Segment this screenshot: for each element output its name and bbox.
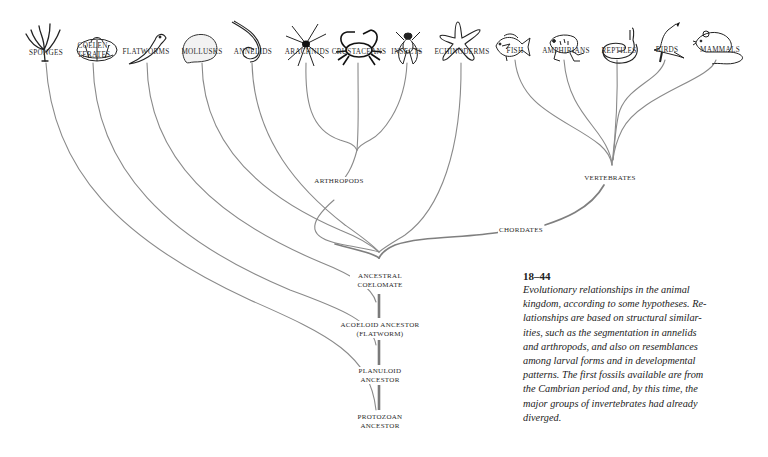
annelid-icon [228, 18, 264, 66]
branch-coelenterates [93, 63, 376, 345]
fly-icon [393, 26, 423, 68]
taxon-label-flatworms: FLATWORMS [115, 48, 177, 57]
node-label-line: ANCESTOR [351, 422, 409, 431]
taxon-label-fish: FISH [500, 47, 530, 56]
taxon-label-annelids: ANNELIDS [225, 48, 281, 57]
caption-line: patterns. The first fossils available ar… [523, 368, 753, 382]
node-label-arthropods: ARTHROPODS [312, 177, 366, 186]
node-label-protozoan-ancestor: PROTOZOAN ANCESTOR [350, 413, 410, 430]
figure-number: 18–44 [523, 270, 753, 282]
snake-icon [600, 26, 642, 66]
bird-icon [650, 22, 686, 64]
node-label-line: ANCESTRAL [351, 272, 409, 281]
taxon-label-amphibians: AMPHIBIANS [536, 47, 596, 56]
taxon-label-line: TERATES [70, 51, 118, 60]
node-label-line: ACOELOID ANCESTOR [340, 321, 420, 330]
caption-line: major groups of invertebrates had alread… [523, 397, 753, 411]
taxon-label-crustaceans: CRUSTACEANS [328, 48, 390, 57]
caption-line: diverged. [523, 411, 753, 425]
node-label-line: COELOMATE [351, 281, 409, 290]
caption-line: among larval forms and in developmental [523, 354, 753, 368]
figure-caption: 18–44 Evolutionary relationships in the … [523, 270, 753, 425]
caption-text: Evolutionary relationships in the animal… [523, 283, 753, 425]
node-label-planuloid-ancestor: PLANULOID ANCESTOR [352, 367, 408, 384]
caption-line: ities, such as the segmentation in annel… [523, 326, 753, 340]
branch-echinoderms [379, 63, 461, 252]
spider-icon [282, 20, 330, 68]
caption-line: and arthropods, and also on resemblances [523, 340, 753, 354]
node-label-line: ANCESTOR [353, 376, 407, 385]
taxon-label-sponges: SPONGES [16, 49, 76, 58]
branch-insects [357, 63, 407, 150]
node-label-line: PLANULOID [353, 367, 407, 376]
taxon-label-mollusks: MOLLUSKS [172, 48, 232, 57]
branch-vertebrates [545, 185, 604, 225]
branch-crustaceans [357, 63, 358, 150]
crab-icon [333, 26, 385, 68]
node-label-line: PROTOZOAN [351, 413, 409, 422]
branch-mollusks [202, 63, 379, 252]
taxon-label-coelenterates: COELEN- TERATES [70, 42, 118, 59]
taxon-label-echinoderms: ECHINODERMS [429, 48, 495, 57]
node-label-vertebrates: VERTEBRATES [583, 174, 637, 183]
taxon-label-insects: INSECTS [383, 48, 431, 57]
caption-line: lationships are based on structural simi… [523, 311, 753, 325]
node-label-ancestral-coelomate: ANCESTRAL COELOMATE [350, 272, 410, 289]
node-label-line: (FLATWORM) [340, 330, 420, 339]
node-label-acoeloid-ancestor: ACOELOID ANCESTOR (FLATWORM) [339, 321, 421, 338]
taxon-label-mammals: MAMMALS [692, 46, 748, 55]
branch-fish [515, 60, 612, 165]
taxon-label-reptiles: REPTILES [596, 47, 642, 56]
caption-line: kingdom, according to some hypotheses. R… [523, 297, 753, 311]
branch-mammals [613, 60, 716, 160]
node-label-chordates: CHORDATES [498, 226, 544, 235]
branch-arachnids [306, 63, 357, 150]
branch-chordates [379, 232, 500, 258]
taxon-label-birds: BIRDS [650, 46, 684, 55]
taxon-label-line: COELEN- [70, 42, 118, 51]
caption-line: Evolutionary relationships in the animal [523, 283, 753, 297]
caption-line: the Cambrian period and, by this time, t… [523, 382, 753, 396]
starfish-icon [437, 20, 483, 66]
